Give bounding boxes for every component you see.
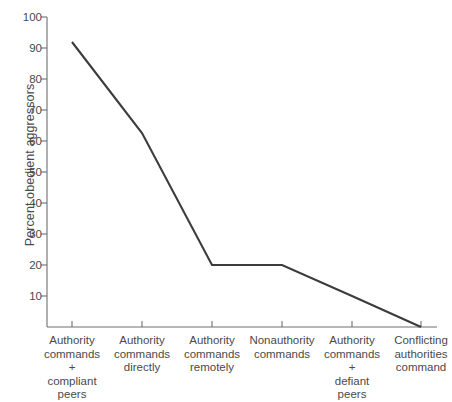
y-tick-label: 20 (16, 259, 42, 271)
y-tick-label: 40 (16, 197, 42, 209)
x-axis-ticks (72, 321, 421, 327)
x-tick-label-5: Conflicting authorities command (372, 334, 452, 375)
y-tick-label: 100 (16, 11, 42, 23)
y-tick-label: 90 (16, 42, 42, 54)
y-tick-label: 30 (16, 228, 42, 240)
y-tick-label: 50 (16, 166, 42, 178)
y-tick-label: 80 (16, 73, 42, 85)
y-tick-label: 70 (16, 104, 42, 116)
y-tick-label: 60 (16, 135, 42, 147)
data-series-line (72, 42, 421, 327)
y-tick-label: 10 (16, 290, 42, 302)
axis-lines (47, 17, 437, 327)
